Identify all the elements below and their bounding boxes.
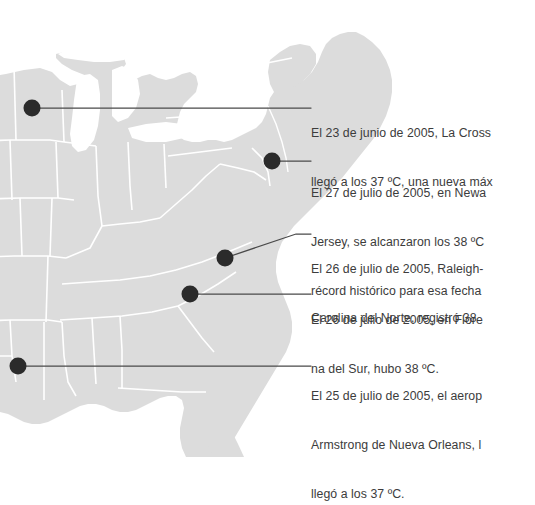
annotation-line: Armstrong de Nueva Orleans, l bbox=[311, 437, 535, 453]
annotation-line: El 26 de julio de 2005, Raleigh- bbox=[311, 261, 535, 277]
annotation-line: El 23 de junio de 2005, La Cross bbox=[311, 125, 535, 141]
annotation-new-orleans: El 25 de julio de 2005, el aerop Armstro… bbox=[311, 355, 535, 505]
marker-la-crosse[interactable] bbox=[24, 100, 41, 117]
marker-newark[interactable] bbox=[264, 153, 281, 170]
marker-florence[interactable] bbox=[182, 286, 199, 303]
annotation-line: El 27 de julio de 2005, en Newa bbox=[311, 185, 535, 201]
annotation-line: llegó a los 37 ºC. bbox=[311, 486, 535, 502]
annotation-line: El 26 de julio de 2005, en Flore bbox=[311, 312, 535, 328]
marker-raleigh-durham[interactable] bbox=[217, 250, 234, 267]
annotation-line: El 25 de julio de 2005, el aerop bbox=[311, 388, 535, 404]
border-ny-ne bbox=[232, 82, 268, 90]
marker-new-orleans[interactable] bbox=[10, 358, 27, 375]
lake-ontario bbox=[190, 104, 232, 120]
